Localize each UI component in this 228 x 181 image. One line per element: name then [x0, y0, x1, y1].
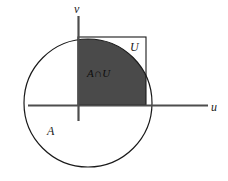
intersection-label: A∩U	[87, 68, 111, 79]
u-axis-label: u	[211, 101, 217, 113]
figure-canvas: v u U A A∩U	[0, 0, 228, 181]
set-u-label: U	[130, 41, 139, 53]
venn-diagram-svg	[0, 0, 228, 181]
set-a-label: A	[47, 125, 54, 137]
v-axis-label: v	[74, 3, 79, 15]
